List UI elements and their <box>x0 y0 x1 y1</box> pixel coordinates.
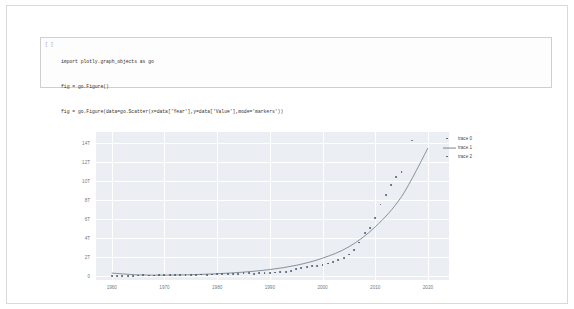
data-point <box>206 274 208 276</box>
x-tick-label: 2010 <box>370 285 380 290</box>
data-point <box>353 249 355 251</box>
legend-label: trace 1 <box>458 145 472 150</box>
y-tick-label: 6T <box>40 217 94 222</box>
data-point <box>390 184 392 186</box>
data-point <box>374 218 376 220</box>
data-point <box>190 274 192 276</box>
data-point <box>264 272 266 274</box>
data-point <box>364 232 366 234</box>
data-point <box>332 261 334 263</box>
data-point <box>137 275 139 277</box>
data-point <box>306 266 308 268</box>
data-point <box>142 275 144 277</box>
data-point <box>216 273 218 275</box>
data-point <box>269 272 271 274</box>
legend-item-trace-0[interactable]: trace 0 <box>442 134 472 143</box>
data-point <box>395 176 397 178</box>
data-point <box>369 227 371 229</box>
data-point <box>253 273 255 275</box>
data-point <box>121 275 123 277</box>
data-point <box>274 272 276 274</box>
x-tick-label: 1960 <box>107 285 117 290</box>
data-point <box>227 273 229 275</box>
y-tick-label: 4T <box>40 236 94 241</box>
y-tick-label: 12T <box>40 160 94 165</box>
data-point <box>380 204 382 206</box>
data-point <box>169 274 171 276</box>
data-point <box>358 242 360 244</box>
data-point <box>316 265 318 267</box>
data-point <box>385 194 387 196</box>
data-point <box>221 273 223 275</box>
data-point <box>322 264 324 266</box>
plot-area[interactable] <box>96 132 449 280</box>
data-point <box>153 275 155 277</box>
data-point <box>285 271 287 273</box>
legend-marker-icon <box>442 152 458 161</box>
code-line: fig = go.Figure() <box>61 83 549 91</box>
y-tick-label: 2T <box>40 255 94 260</box>
data-point <box>164 274 166 276</box>
cell-prompt-label: [ ] <box>45 41 53 49</box>
data-point <box>258 272 260 274</box>
y-tick-label: 14T <box>40 141 94 146</box>
data-point <box>237 273 239 275</box>
data-point <box>401 171 403 173</box>
data-point <box>279 271 281 273</box>
data-point <box>243 272 245 274</box>
x-tick-label: 2000 <box>317 285 327 290</box>
data-point <box>248 272 250 274</box>
data-point <box>290 270 292 272</box>
data-point <box>195 274 197 276</box>
data-point <box>158 275 160 277</box>
trace1-fit-line <box>96 132 449 280</box>
data-point <box>232 273 234 275</box>
data-point <box>301 267 303 269</box>
chart-legend[interactable]: trace 0 trace 1 trace 2 <box>442 134 504 164</box>
x-tick-label: 1990 <box>265 285 275 290</box>
data-point <box>116 275 118 277</box>
data-point <box>311 265 313 267</box>
legend-item-trace-2[interactable]: trace 2 <box>442 152 472 161</box>
y-tick-label: 0 <box>40 274 94 279</box>
data-point <box>348 254 350 256</box>
data-point <box>211 274 213 276</box>
y-tick-label: 8T <box>40 198 94 203</box>
predicted-data-point <box>411 140 413 142</box>
code-line: fig = go.Figure(data=go.Scatter(x=data['… <box>61 108 549 116</box>
screenshot-root: [ ] import plotly.graph_objects as go fi… <box>0 0 574 309</box>
x-tick-label: 2020 <box>423 285 433 290</box>
data-point <box>343 257 345 259</box>
data-point <box>185 274 187 276</box>
y-tick-label: 10T <box>40 179 94 184</box>
legend-line-icon <box>442 143 458 152</box>
data-point <box>295 268 297 270</box>
data-point <box>200 274 202 276</box>
data-point <box>148 275 150 277</box>
data-point <box>127 275 129 277</box>
notebook-page-frame: [ ] import plotly.graph_objects as go fi… <box>6 5 568 304</box>
data-point <box>327 263 329 265</box>
legend-label: trace 0 <box>458 136 472 141</box>
data-point <box>337 260 339 262</box>
legend-item-trace-1[interactable]: trace 1 <box>442 143 472 152</box>
x-tick-label: 1970 <box>159 285 169 290</box>
data-point <box>174 274 176 276</box>
code-cell[interactable]: [ ] import plotly.graph_objects as go fi… <box>40 37 552 88</box>
data-point <box>111 275 113 277</box>
code-line: import plotly.graph_objects as go <box>61 58 549 66</box>
x-tick-label: 1980 <box>212 285 222 290</box>
data-point <box>132 275 134 277</box>
legend-label: trace 2 <box>458 154 472 159</box>
data-point <box>179 274 181 276</box>
legend-marker-icon <box>442 134 458 143</box>
